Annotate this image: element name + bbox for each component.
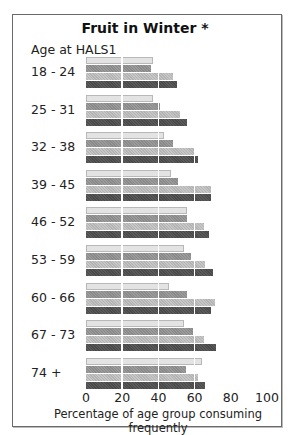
bar <box>86 65 151 72</box>
bar-group <box>86 170 267 201</box>
bar-group <box>86 95 267 126</box>
category-label: 39 - 45 <box>31 177 75 192</box>
bar <box>86 223 204 230</box>
chart-title: Fruit in Winter * <box>0 20 290 36</box>
bar-group <box>86 358 267 389</box>
x-tick-label: 100 <box>255 390 279 405</box>
x-tick-label: 0 <box>82 390 90 405</box>
bar <box>86 328 193 335</box>
bar <box>86 215 187 222</box>
category-label: 25 - 31 <box>31 102 75 117</box>
x-tick-label: 20 <box>114 390 130 405</box>
bar <box>86 140 173 147</box>
bar <box>86 336 204 343</box>
bar <box>86 374 198 381</box>
bar <box>86 132 164 139</box>
bar <box>86 231 209 238</box>
x-axis-title: Percentage of age group consuming freque… <box>0 407 290 435</box>
bar <box>86 111 180 118</box>
bar <box>86 320 184 327</box>
category-label: 67 - 73 <box>31 327 75 342</box>
bar <box>86 95 153 102</box>
gridline <box>158 57 160 390</box>
bar <box>86 358 202 365</box>
bar <box>86 344 216 351</box>
bar <box>86 366 186 373</box>
bar <box>86 382 205 389</box>
bar <box>86 73 173 80</box>
bar <box>86 148 195 155</box>
bar <box>86 307 211 314</box>
bar <box>86 57 153 64</box>
category-label: 74 + <box>31 365 61 380</box>
bar-group <box>86 320 267 351</box>
y-axis-title: Age at HALS1 <box>31 42 117 57</box>
bar <box>86 186 211 193</box>
bar-group <box>86 207 267 238</box>
bar <box>86 178 178 185</box>
bar <box>86 245 184 252</box>
bar <box>86 207 187 214</box>
bar-group <box>86 57 267 88</box>
bar <box>86 119 187 126</box>
gridline <box>194 57 196 390</box>
bar <box>86 291 187 298</box>
gridline <box>121 57 123 390</box>
category-label: 18 - 24 <box>31 64 75 79</box>
bar <box>86 194 211 201</box>
bar <box>86 156 198 163</box>
x-tick-label: 40 <box>150 390 166 405</box>
x-tick-label: 60 <box>187 390 203 405</box>
bar-group <box>86 245 267 276</box>
category-label: 53 - 59 <box>31 252 75 267</box>
x-tick-label: 80 <box>223 390 239 405</box>
category-label: 46 - 52 <box>31 214 75 229</box>
category-label: 32 - 38 <box>31 139 75 154</box>
gridline <box>230 57 232 390</box>
plot-area <box>86 57 267 390</box>
bar-group <box>86 283 267 314</box>
bar-group <box>86 132 267 163</box>
bar <box>86 103 160 110</box>
bar <box>86 261 205 268</box>
bar <box>86 81 177 88</box>
bar <box>86 253 191 260</box>
category-label: 60 - 66 <box>31 290 75 305</box>
